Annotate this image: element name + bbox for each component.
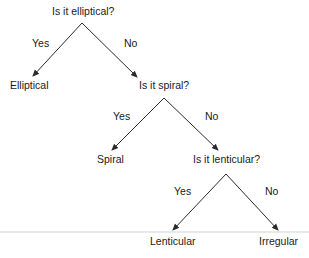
leaf-spiral: Spiral bbox=[97, 153, 124, 165]
node-q1: Is it elliptical? bbox=[52, 5, 114, 17]
decision-tree-diagram: Is it elliptical? Yes No Elliptical Is i… bbox=[0, 0, 309, 258]
edge-label-q3-yes: Yes bbox=[174, 185, 191, 197]
edge-label-q2-yes: Yes bbox=[113, 110, 130, 122]
node-q2: Is it spiral? bbox=[139, 79, 189, 91]
edge-label-q3-no: No bbox=[265, 185, 278, 197]
leaf-irregular: Irregular bbox=[259, 235, 298, 247]
leaf-elliptical: Elliptical bbox=[10, 79, 49, 91]
leaf-lenticular: Lenticular bbox=[150, 235, 196, 247]
node-q3: Is it lenticular? bbox=[193, 153, 260, 165]
edge-label-q1-yes: Yes bbox=[32, 37, 49, 49]
edge-label-q1-no: No bbox=[124, 37, 137, 49]
edge-label-q2-no: No bbox=[205, 110, 218, 122]
